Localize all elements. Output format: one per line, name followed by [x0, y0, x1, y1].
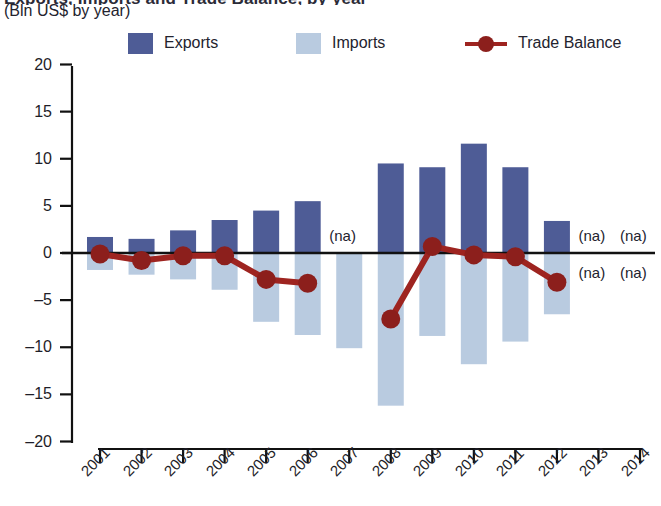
bar-exports-2002 — [129, 239, 155, 253]
bar-exports-2006 — [295, 201, 321, 253]
y-tick-label--10: –10 — [6, 339, 52, 355]
bar-exports-2008 — [378, 163, 404, 253]
plot-svg — [0, 0, 661, 506]
y-tick-label--20: –20 — [6, 434, 52, 450]
y-tick-label--5: –5 — [6, 292, 52, 308]
bar-exports-2011 — [502, 167, 528, 253]
y-tick-label-10: 10 — [6, 151, 52, 167]
trade-balance-point-2009 — [423, 237, 442, 256]
na-label-2014-below: (na) — [620, 265, 647, 280]
trade-balance-point-2004 — [215, 246, 234, 265]
bar-exports-2012 — [544, 221, 570, 253]
na-label-2007-above: (na) — [329, 228, 356, 243]
trade-balance-point-2008 — [381, 309, 400, 328]
bar-exports-2005 — [253, 211, 279, 253]
na-label-2013-above: (na) — [578, 228, 605, 243]
bar-imports-2007 — [336, 253, 362, 348]
bar-imports-2010 — [461, 253, 487, 364]
bar-exports-2010 — [461, 144, 487, 253]
trade-balance-point-2003 — [174, 246, 193, 265]
y-tick-label-0: 0 — [6, 245, 52, 261]
y-tick-label--15: –15 — [6, 386, 52, 402]
bar-imports-2011 — [502, 253, 528, 342]
trade-balance-point-2006 — [298, 274, 317, 293]
trade-balance-point-2010 — [464, 245, 483, 264]
trade-balance-point-2001 — [91, 244, 110, 263]
plot-area — [0, 0, 661, 506]
trade-balance-point-2005 — [257, 270, 276, 289]
trade-balance-point-2011 — [506, 247, 525, 266]
bar-imports-2008 — [378, 253, 404, 406]
trade-balance-chart: Exports, Imports and Trade Balance, by y… — [0, 0, 661, 506]
na-label-2014-above: (na) — [620, 228, 647, 243]
y-tick-label-15: 15 — [6, 104, 52, 120]
y-tick-label-20: 20 — [6, 57, 52, 73]
na-label-2013-below: (na) — [578, 265, 605, 280]
trade-balance-point-2002 — [132, 251, 151, 270]
y-tick-label-5: 5 — [6, 198, 52, 214]
trade-balance-point-2012 — [547, 273, 566, 292]
bar-imports-2006 — [295, 253, 321, 335]
